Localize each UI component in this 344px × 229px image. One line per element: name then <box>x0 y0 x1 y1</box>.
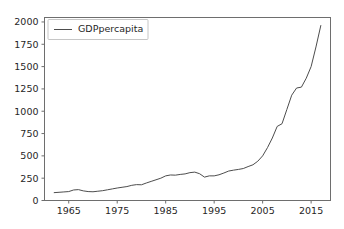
x-tick-label: 2005 <box>251 205 275 216</box>
x-tick-label: 2015 <box>299 205 323 216</box>
y-tick-label: 1750 <box>14 39 38 50</box>
x-tick-label: 1995 <box>202 205 226 216</box>
chart-legend: GDPpercapita <box>48 20 148 40</box>
y-tick-label: 1250 <box>14 83 38 94</box>
y-tick-label: 500 <box>20 150 38 161</box>
data-line-GDPpercapita <box>54 26 321 193</box>
y-tick-label: 1500 <box>14 61 38 72</box>
x-tick-label: 1965 <box>57 205 81 216</box>
y-tick-label: 1000 <box>14 106 38 117</box>
x-tick-label: 1985 <box>154 205 178 216</box>
legend-label: GDPpercapita <box>78 23 143 34</box>
y-tick-label: 250 <box>20 173 38 184</box>
chart-figure: 025050075010001250150017502000 196519751… <box>0 0 344 229</box>
y-axis-tick-labels: 025050075010001250150017502000 <box>14 16 38 206</box>
x-tick-label: 1975 <box>105 205 129 216</box>
y-tick-label: 2000 <box>14 16 38 27</box>
y-tick-label: 750 <box>20 128 38 139</box>
data-series-group <box>54 26 321 193</box>
y-tick-label: 0 <box>32 195 38 206</box>
x-axis-tick-labels: 196519751985199520052015 <box>57 205 324 216</box>
chart-plot-area: 025050075010001250150017502000 196519751… <box>0 0 344 229</box>
